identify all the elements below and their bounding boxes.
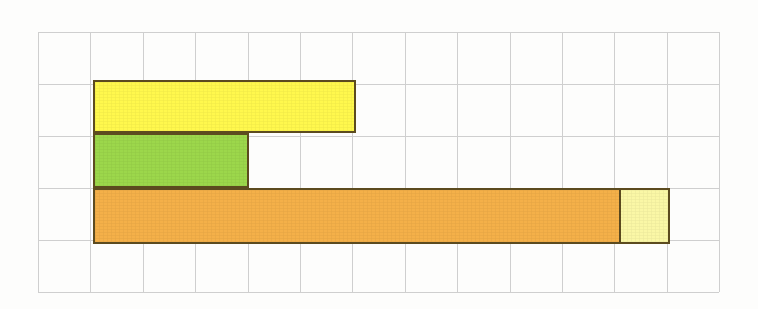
gridline-horizontal bbox=[38, 32, 719, 33]
gridline-vertical bbox=[38, 32, 39, 292]
figure-canvas bbox=[0, 0, 758, 309]
pale-yellow-segment bbox=[619, 190, 668, 242]
gridline-vertical bbox=[300, 32, 301, 292]
green-segment bbox=[95, 135, 247, 186]
yellow-segment bbox=[95, 82, 354, 131]
green-bar bbox=[93, 133, 249, 188]
gridline-vertical bbox=[405, 32, 406, 292]
gridline-vertical bbox=[510, 32, 511, 292]
gridline-vertical bbox=[352, 32, 353, 292]
yellow-bar bbox=[93, 80, 356, 133]
gridline-horizontal bbox=[38, 292, 719, 293]
orange-segment bbox=[95, 190, 619, 242]
gridline-vertical bbox=[90, 32, 91, 292]
gridline-vertical bbox=[562, 32, 563, 292]
gridline-vertical bbox=[667, 32, 668, 292]
gridline-vertical bbox=[614, 32, 615, 292]
gridline-vertical bbox=[457, 32, 458, 292]
gridline-vertical bbox=[719, 32, 720, 292]
orange-bar bbox=[93, 188, 670, 244]
